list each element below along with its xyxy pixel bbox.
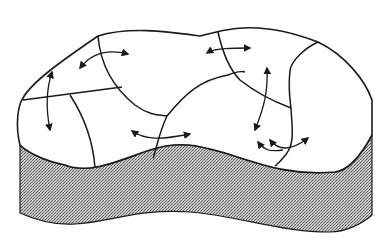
diagram-canvas [0, 0, 391, 247]
watershed-block-diagram [0, 0, 391, 247]
